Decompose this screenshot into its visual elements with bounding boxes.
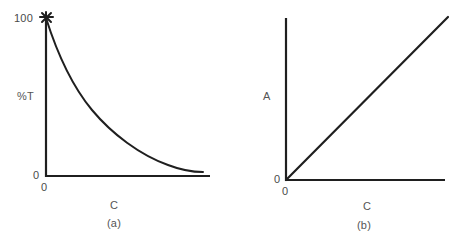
panel-transmittance: 100 %T 0 0 C (a) xyxy=(0,0,230,246)
panel-b-plot xyxy=(230,0,461,246)
panel-b-y-zero-label: 0 xyxy=(274,173,280,185)
panel-a-x-zero-label: 0 xyxy=(41,181,47,193)
panel-absorbance: A 0 0 C (b) xyxy=(230,0,461,246)
panel-b-caption: (b) xyxy=(357,219,371,231)
panel-b-linear-line xyxy=(286,17,448,180)
panel-a-y-axis-label: %T xyxy=(17,90,34,102)
panel-a-decay-curve xyxy=(46,18,203,172)
panel-a-x-axis-label: C xyxy=(110,199,118,211)
panel-a-ytick-100: 100 xyxy=(14,12,33,24)
panel-b-x-axis-label: C xyxy=(363,200,371,212)
panel-b-x-zero-label: 0 xyxy=(282,185,288,197)
panel-a-y-zero-label: 0 xyxy=(33,169,39,181)
panel-b-y-axis-label: A xyxy=(263,90,271,102)
panel-a-caption: (a) xyxy=(107,217,121,229)
figure-root: 100 %T 0 0 C (a) A 0 0 C (b) xyxy=(0,0,461,246)
